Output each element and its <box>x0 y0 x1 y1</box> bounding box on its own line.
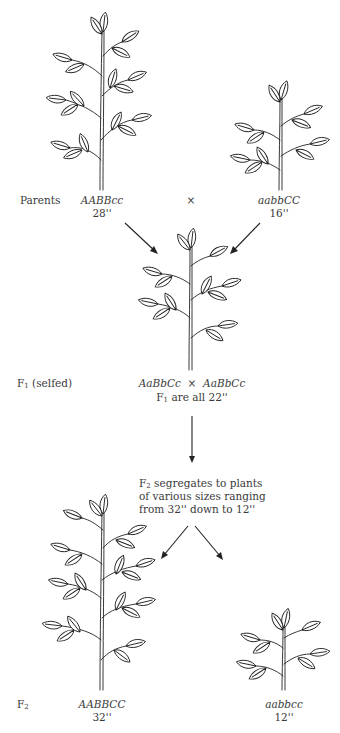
height-f2-right: 12'' <box>274 711 293 724</box>
row-label-f1: F1 (selfed) <box>17 377 72 393</box>
f2-note-line3: from 32'' down to 12'' <box>139 503 255 516</box>
height-parent-left: 28'' <box>92 207 111 220</box>
height-parent-right: 16'' <box>269 207 288 220</box>
f1-note-suffix: are all 22'' <box>168 391 228 403</box>
genotype-f2-right: aabbcc <box>265 698 303 711</box>
arrow-icon <box>189 416 195 463</box>
cross-symbol: × <box>187 194 196 207</box>
f1-cross-right: AaBbCc <box>203 377 245 389</box>
height-f2-left: 32'' <box>92 711 111 724</box>
f1-note: F1 are all 22'' <box>156 391 227 407</box>
f1-label-suffix: (selfed) <box>29 377 72 389</box>
f2-label-sub: 2 <box>24 703 28 711</box>
plant-tallest-icon <box>41 493 156 690</box>
row-label-f2: F2 <box>17 698 29 714</box>
plant-short-icon <box>229 80 330 190</box>
f1-cross-symbol: × <box>188 377 197 389</box>
genotype-parent-left: AABBcc <box>81 194 123 207</box>
f1-cross-left: AaBbCc <box>139 377 181 389</box>
f2-note-line2: of various sizes ranging <box>139 490 266 503</box>
genotype-parent-right: aabbCC <box>258 194 300 207</box>
plant-shortest-icon <box>235 607 330 690</box>
f1-cross: AaBbCc × AaBbCc <box>139 377 246 390</box>
f2-note-suffix: segregates to plants <box>151 477 263 489</box>
pedigree-diagram <box>0 0 340 733</box>
row-label-parents: Parents <box>20 194 60 207</box>
arrow-icon <box>161 526 223 560</box>
plant-tall-icon <box>45 11 152 190</box>
genotype-f2-left: AABBCC <box>79 698 126 711</box>
